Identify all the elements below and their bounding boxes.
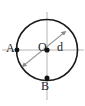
geometry-figure: A O d B	[0, 0, 85, 106]
label-point-a: A	[6, 42, 15, 54]
label-diameter-d: d	[57, 41, 63, 53]
label-point-b: B	[41, 80, 49, 92]
point-a-dot	[15, 48, 20, 53]
label-centre-o: O	[38, 41, 47, 53]
